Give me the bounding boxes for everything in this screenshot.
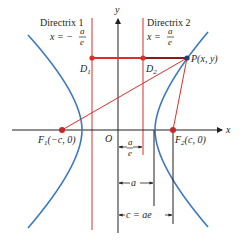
directrix-2-equation: x = <box>146 31 161 42</box>
focus-1-point <box>59 127 65 133</box>
focus-2-point <box>170 127 176 133</box>
directrix-1-eq-num: a <box>80 26 85 36</box>
a-dimension-label: a <box>131 177 136 188</box>
hyperbola-left-branch <box>28 35 82 228</box>
focus-1-label: F1(−c, 0) <box>37 134 76 147</box>
origin-label: O <box>105 133 112 144</box>
p-point <box>184 55 189 60</box>
y-axis-label: y <box>114 4 120 15</box>
d1-label: D1 <box>79 63 91 76</box>
directrix-2-eq-den: e <box>168 37 172 47</box>
d1-point <box>89 55 94 60</box>
directrix-1-equation: x = − <box>49 31 73 42</box>
directrix-1-title: Directrix 1 <box>40 17 84 28</box>
a-over-e-num: a <box>128 137 133 147</box>
c-dimension-label: c = ae <box>126 209 152 220</box>
x-axis-label: x <box>225 124 231 135</box>
p-label: P(x, y) <box>190 53 218 65</box>
d2-point <box>140 55 145 60</box>
directrix-1-eq-den: e <box>80 37 84 47</box>
focus-2-label: F2(c, 0) <box>174 134 206 147</box>
hyperbola-diagram: y x O Directrix 1 x = − a e Directrix 2 … <box>0 0 243 241</box>
directrix-2-eq-num: a <box>168 26 173 36</box>
a-over-e-den: e <box>128 148 132 158</box>
d2-label: D2 <box>145 63 157 76</box>
